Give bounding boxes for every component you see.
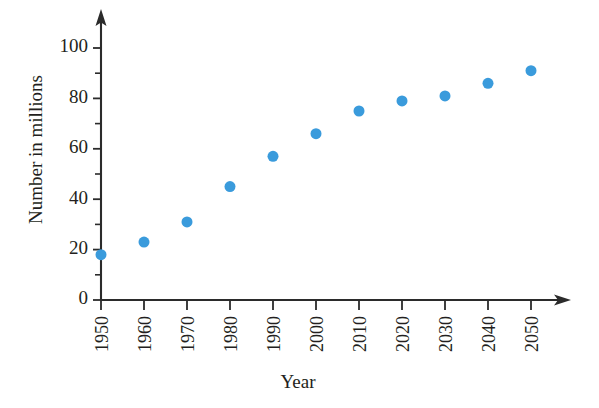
x-tick-label-2030: 2030 [436,316,456,352]
x-tick-label-2020: 2020 [393,316,413,352]
x-tick-label-1980: 1980 [221,316,241,352]
data-point-2030 [440,90,451,101]
y-tick-label-80: 80 [69,86,88,107]
x-tick-labels: 1950 1960 1970 1980 1990 2000 2010 2020 … [92,316,542,352]
data-point-1950 [96,249,107,260]
y-tick-label-40: 40 [69,187,88,208]
x-tick-label-1950: 1950 [92,316,112,352]
x-axis-title: Year [280,371,316,392]
x-axis-group [101,295,571,306]
data-point-2040 [483,78,494,89]
data-point-1970 [182,216,193,227]
data-point-2000 [311,128,322,139]
x-tick-label-1990: 1990 [264,316,284,352]
x-tick-label-1960: 1960 [135,316,155,352]
x-tick-label-1970: 1970 [178,316,198,352]
y-tick-label-0: 0 [79,287,89,308]
y-tick-label-20: 20 [69,237,88,258]
data-point-2010 [354,106,365,117]
data-point-2020 [397,95,408,106]
data-point-1980 [225,181,236,192]
y-tick-labels: 0 20 40 60 80 100 [60,35,89,308]
chart-page: 0 20 40 60 80 100 1950 1960 1970 1980 [0,0,599,408]
x-tick-label-2050: 2050 [522,316,542,352]
x-tick-label-2040: 2040 [479,316,499,352]
y-tick-label-100: 100 [60,35,89,56]
data-point-2050 [526,65,537,76]
y-axis-title: Number in millions [25,75,46,224]
x-ticks [101,300,531,310]
y-tick-label-60: 60 [69,136,88,157]
data-point-1990 [268,151,279,162]
data-point-1960 [139,237,150,248]
data-point-series [96,65,537,260]
x-tick-label-2010: 2010 [350,316,370,352]
scatter-plot: 0 20 40 60 80 100 1950 1960 1970 1980 [0,0,599,408]
x-tick-label-2000: 2000 [307,316,327,352]
